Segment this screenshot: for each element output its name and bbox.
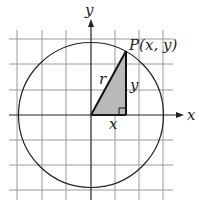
y-axis-arrow-icon (88, 19, 94, 27)
radius-label: r (99, 70, 107, 88)
trig-circle-diagram: y x P(x, y) r y x (0, 0, 202, 206)
y-axis-label: y (84, 1, 94, 19)
point-p-label: P(x, y) (128, 36, 177, 54)
x-axis-label: x (187, 106, 196, 124)
leg-x-label: x (109, 115, 118, 133)
leg-y-label: y (129, 76, 139, 94)
x-axis-arrow-icon (176, 112, 184, 118)
